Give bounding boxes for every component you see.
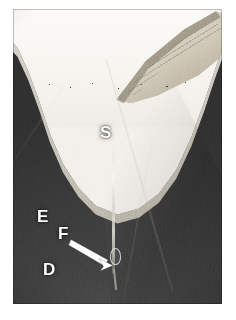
- label-e: E: [37, 208, 49, 225]
- figure-root: S E F D: [0, 0, 236, 320]
- label-f: F: [58, 225, 69, 242]
- caption-strip: [13, 304, 222, 316]
- label-d: D: [43, 261, 55, 278]
- label-s: S: [100, 124, 112, 141]
